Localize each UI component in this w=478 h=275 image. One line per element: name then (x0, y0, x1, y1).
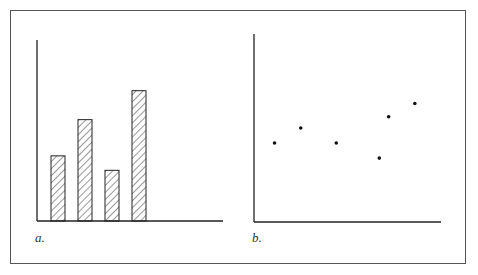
data-point (273, 141, 277, 145)
figure-canvas (0, 0, 478, 275)
data-point (299, 126, 303, 130)
panel-label-a: a. (35, 230, 45, 246)
panel-label-b: b. (252, 230, 262, 246)
bar (78, 120, 92, 221)
data-point (377, 156, 381, 160)
bar-chart-a (37, 40, 223, 221)
bar (51, 156, 65, 221)
bar (132, 91, 146, 221)
bar (105, 170, 119, 221)
data-point (334, 141, 338, 145)
scatter-chart-b (254, 34, 441, 222)
data-point (413, 102, 417, 106)
data-point (387, 115, 391, 119)
